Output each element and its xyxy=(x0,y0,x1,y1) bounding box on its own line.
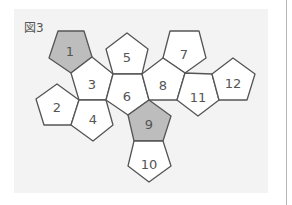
face-number-label: 1 xyxy=(66,44,74,59)
face-10: 10 xyxy=(128,141,171,182)
face-12: 12 xyxy=(212,58,255,100)
face-number-label: 12 xyxy=(225,76,242,91)
face-number-label: 5 xyxy=(123,50,131,65)
net-faces: 123456789101112 xyxy=(36,31,255,182)
face-number-label: 4 xyxy=(89,112,97,127)
face-11: 11 xyxy=(177,73,219,116)
face-number-label: 10 xyxy=(141,157,158,172)
face-number-label: 8 xyxy=(159,78,167,93)
face-5: 5 xyxy=(106,33,148,74)
face-number-label: 7 xyxy=(180,47,188,62)
face-number-label: 2 xyxy=(53,100,61,115)
face-number-label: 11 xyxy=(190,90,207,105)
face-number-label: 6 xyxy=(123,89,131,104)
face-number-label: 3 xyxy=(88,77,96,92)
dodecahedron-net-diagram: 123456789101112 xyxy=(0,0,292,205)
face-number-label: 9 xyxy=(145,117,153,132)
face-4: 4 xyxy=(71,100,113,141)
